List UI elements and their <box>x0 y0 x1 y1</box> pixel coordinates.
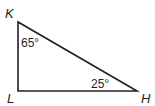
angle-label-k: 65° <box>21 36 39 50</box>
vertex-label-h: H <box>141 91 151 106</box>
triangle-klh <box>18 22 137 91</box>
angle-label-h: 25° <box>91 77 109 91</box>
vertex-label-k: K <box>5 6 15 21</box>
triangle-diagram: K L H 65° 25° <box>0 0 155 106</box>
vertex-label-l: L <box>7 91 14 106</box>
